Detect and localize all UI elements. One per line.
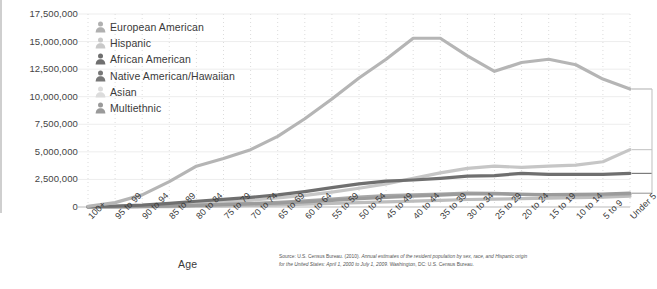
y-axis-tick-label: 10,000,000 <box>4 91 78 102</box>
person-icon <box>95 70 106 82</box>
legend-item-label: African American <box>110 53 191 65</box>
legend-item: European American <box>95 19 235 35</box>
legend-item: Native American/Hawaiian <box>95 68 235 84</box>
source-line2-italic: April 1, 2000 to July 1, 2009. <box>326 262 389 267</box>
person-icon <box>95 53 106 65</box>
legend-item: Hispanic <box>95 35 235 51</box>
person-icon <box>95 102 106 114</box>
source-note: Source: U.S. Census Bureau. (2010). Annu… <box>279 253 529 268</box>
y-axis-tick-label: 2,500,000 <box>4 173 78 184</box>
source-line2-head: Washington, DC: U.S. Census Bureau. <box>390 262 474 267</box>
person-icon <box>95 37 106 49</box>
y-axis-tick-label: 0 <box>4 201 78 212</box>
chart-figure: 17,500,00015,000,00012,500,00010,000,000… <box>0 0 657 289</box>
legend-item: Multiethnic <box>95 100 235 116</box>
x-axis-title: Age <box>178 258 197 270</box>
person-icon <box>95 86 106 98</box>
person-icon <box>95 21 106 33</box>
legend-item-label: Hispanic <box>110 37 151 49</box>
legend-item-label: Native American/Hawaiian <box>110 70 235 82</box>
legend-item: Asian <box>95 84 235 100</box>
source-line1-head: Source: U.S. Census Bureau. (2010). <box>279 254 361 259</box>
chart-legend: European AmericanHispanicAfrican America… <box>95 19 235 116</box>
legend-item-label: Multiethnic <box>110 102 161 114</box>
y-axis-tick-label: 7,500,000 <box>4 118 78 129</box>
legend-item-label: Asian <box>110 86 137 98</box>
y-axis-tick-label: 5,000,000 <box>4 146 78 157</box>
y-axis-tick-label: 17,500,000 <box>4 8 78 19</box>
y-axis-tick-label: 15,000,000 <box>4 36 78 47</box>
legend-item: African American <box>95 51 235 67</box>
y-axis-tick-label: 12,500,000 <box>4 63 78 74</box>
legend-item-label: European American <box>110 21 204 33</box>
